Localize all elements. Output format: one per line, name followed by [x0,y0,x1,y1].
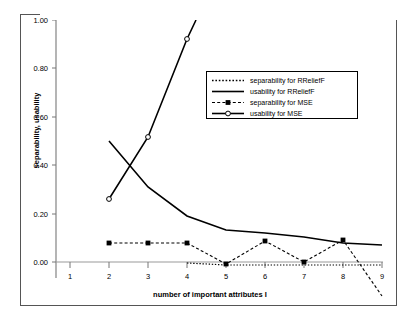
marker-usability-mse-x4 [185,37,190,42]
top-clip-cover [40,0,400,20]
y-tick-label-1.00: 1.00 [22,16,48,25]
marker-separability-mse-x3 [146,241,151,246]
marker-separability-mse-x2 [107,241,112,246]
series-separability-mse [109,240,382,296]
marker-separability-mse-x8 [341,238,346,243]
marker-usability-mse-x3 [146,135,151,140]
dotted-line-key [211,75,245,86]
marker-separability-mse-x5 [224,262,229,267]
x-axis-title: number of important attributes I [60,290,360,299]
legend-item-usability-mse: usability for MSE [211,108,353,119]
legend-label-separability-mse: separability for MSE [250,97,313,108]
marker-separability-mse-x4 [185,241,190,246]
legend-item-separability-rrelieff: separability for RReliefF [211,75,353,86]
y-tick-label-0.00: 0.00 [22,258,48,267]
series-usability-rrelieff [109,141,382,245]
x-tick-label-9: 9 [372,272,392,281]
legend-label-separability-rrelieff: separability for RReliefF [250,75,325,86]
solid-circle-marker-key [211,108,245,119]
x-tick-label-5: 5 [216,272,236,281]
x-tick-label-6: 6 [255,272,275,281]
x-tick-label-3: 3 [138,272,158,281]
marker-usability-mse-x2 [107,197,112,202]
x-tick-label-2: 2 [99,272,119,281]
chart-figure: 1.00 0.80 0.60 0.40 0.20 0.00 1 2 3 4 5 … [0,0,417,326]
legend: separability for RReliefF usability for … [206,71,358,119]
legend-item-separability-mse: separability for MSE [211,97,353,108]
marker-separability-mse-x6 [263,239,268,244]
x-tick-label-8: 8 [333,272,353,281]
series-separability-rrelieff [187,263,382,265]
legend-item-usability-rrelieff: usability for RReliefF [211,86,353,97]
x-tick-label-4: 4 [177,272,197,281]
legend-label-usability-rrelieff: usability for RReliefF [250,86,315,97]
y-axis-title: separability, usability [32,71,41,191]
solid-line-key [211,86,245,97]
dashed-square-marker-key [211,97,245,108]
y-tick-label-0.20: 0.20 [22,210,48,219]
series-usability-mse [109,20,196,199]
legend-label-usability-mse: usability for MSE [250,108,303,119]
x-tick-label-7: 7 [294,272,314,281]
x-tick-label-1: 1 [60,272,80,281]
marker-separability-mse-x7 [302,260,307,265]
